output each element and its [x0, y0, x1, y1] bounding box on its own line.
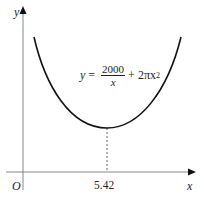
origin-label: O	[12, 180, 21, 192]
equation-denominator: x	[111, 76, 116, 88]
equation-plus-term: + 2πx	[128, 68, 156, 83]
y-axis-label: y	[14, 6, 19, 18]
y-axis-arrow-icon	[20, 6, 27, 14]
x-axis-label: x	[187, 180, 192, 192]
equation-exponent: 2	[156, 71, 160, 80]
equation-numerator: 2000	[101, 63, 125, 76]
equation-label: y = 2000 x + 2πx2	[80, 63, 160, 88]
x-axis-arrow-icon	[188, 169, 196, 176]
minimum-x-label: 5.42	[94, 180, 114, 192]
plot-area	[0, 0, 204, 203]
equation-lhs: y	[80, 68, 85, 83]
equation-fraction: 2000 x	[101, 63, 125, 88]
